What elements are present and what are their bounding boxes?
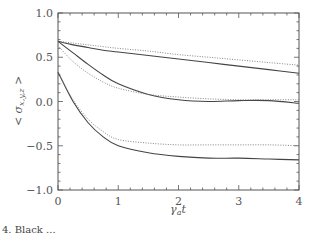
y-tick-label: 1.0 [36, 7, 54, 20]
x-tick-label: 1 [115, 195, 122, 208]
series-solid-middle [58, 41, 299, 103]
y-tick-label: 0.5 [36, 51, 54, 64]
x-tick-label: 3 [235, 195, 242, 208]
tick-labels: 012341.00.50.0−0.5−1.0 [26, 7, 302, 208]
axis-ticks [58, 13, 299, 190]
series-dotted-lower [58, 72, 299, 145]
y-tick-label: 0.0 [36, 96, 54, 109]
y-axis-label: < σx,y,z > [12, 76, 26, 126]
plot-frame [58, 13, 299, 190]
y-tick-label: −0.5 [26, 140, 53, 153]
series-dotted-upper [58, 41, 299, 65]
x-tick-label: 4 [296, 195, 303, 208]
figure-caption: 4. Black ... [2, 224, 56, 235]
y-tick-label: −1.0 [26, 184, 53, 197]
plot-border [58, 13, 299, 190]
x-tick-label: 0 [55, 195, 62, 208]
series-solid-lower [58, 72, 299, 160]
data-series [58, 41, 299, 160]
line-chart: 012341.00.50.0−0.5−1.0 γat < σx,y,z > [0, 0, 312, 235]
series-dotted-middle [58, 46, 299, 100]
